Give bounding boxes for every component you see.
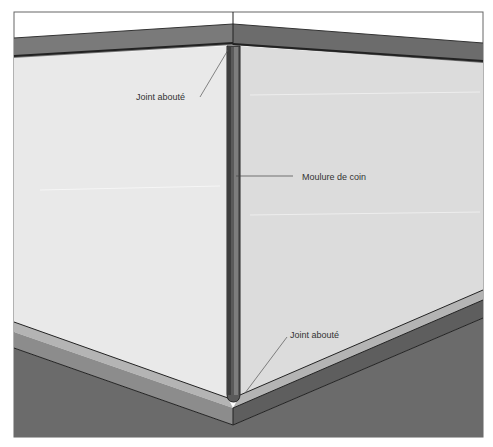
wall-corner-illustration xyxy=(0,0,493,447)
label-bottom-butt-joint: Joint abouté xyxy=(290,330,339,340)
label-top-butt-joint: Joint abouté xyxy=(136,92,185,102)
corner-molding xyxy=(227,46,240,402)
label-corner-molding: Moulure de coin xyxy=(302,172,366,182)
